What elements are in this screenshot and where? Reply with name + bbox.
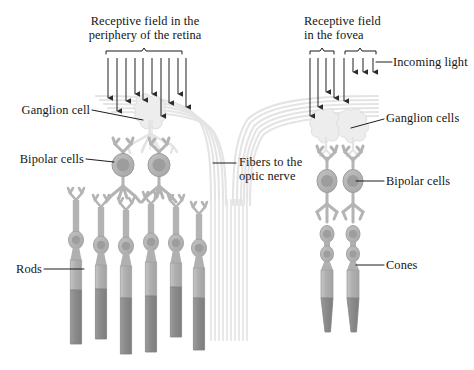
rod-6	[191, 202, 207, 350]
bracket-periphery	[106, 48, 182, 54]
incoming-light-label: Incoming light	[393, 55, 468, 69]
bracket-fovea-right	[345, 48, 376, 54]
rod-5	[168, 195, 184, 337]
rod-3	[118, 198, 134, 354]
cones-label: Cones	[386, 258, 417, 272]
bipolar-cells-left-label: Bipolar cells	[0, 152, 84, 166]
rod-4	[143, 192, 159, 352]
optic-nerve-trunk	[211, 200, 247, 340]
ganglion-cells-label: Ganglion cells	[386, 111, 459, 125]
bipolar-cells-right-label: Bipolar cells	[386, 174, 450, 188]
ganglion-cell-label: Ganglion cell	[0, 103, 90, 117]
bracket-fovea-left	[310, 48, 334, 54]
cone-2	[346, 226, 360, 333]
cone-1	[320, 226, 334, 333]
rod-1	[68, 188, 84, 344]
fibers-to-optic-nerve-label: Fibers to the optic nerve	[239, 155, 349, 183]
rod-2	[93, 195, 109, 339]
light-arrows-fovea-short	[353, 58, 373, 72]
rods-label: Rods	[0, 262, 42, 276]
retina-diagram: Receptive field in the periphery of the …	[0, 0, 474, 370]
periphery-title-label: Receptive field in the periphery of the …	[74, 14, 216, 42]
fovea-title-label: Receptive field in the fovea	[304, 14, 424, 42]
bipolar-cells-left-leader	[86, 159, 114, 162]
bipolar-cell-left-1	[106, 138, 140, 202]
